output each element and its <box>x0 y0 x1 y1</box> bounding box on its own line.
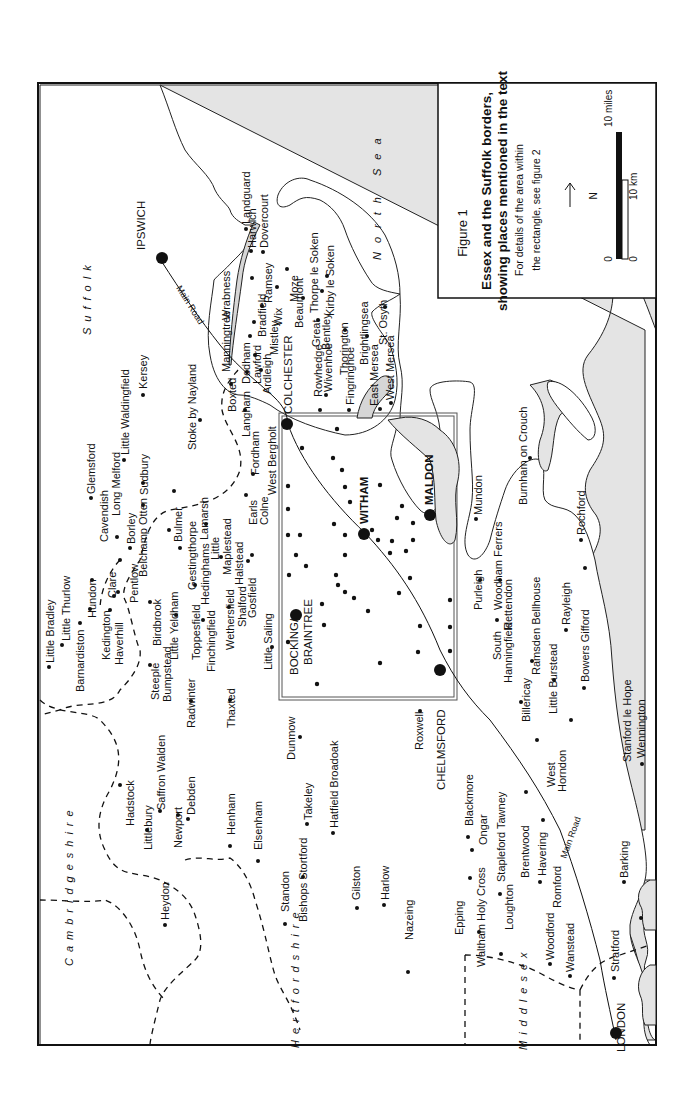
place-long-melford: Long Melford <box>110 452 122 516</box>
place-glemsford: Glemsford <box>85 443 97 494</box>
place-nazeing: Nazeing <box>403 900 415 940</box>
place-dunmow: Dunmow <box>285 717 297 760</box>
place-little-saling: Little Saling <box>262 613 274 670</box>
north-label: N <box>588 192 599 199</box>
figure-title-line1: Essex and the Suffolk borders, <box>479 92 494 290</box>
place-rochford: Rochford <box>575 490 587 535</box>
place-maplestead: Maplestead <box>221 518 233 575</box>
place-bowers-gifford: Bowers Gifford <box>579 609 591 682</box>
place-standon: Standon <box>279 871 291 912</box>
place-hatfield-broadoak: Hatfield Broadoak <box>328 740 340 828</box>
place-epping: Epping <box>453 901 465 935</box>
place-bradfield: Bradfield <box>256 294 268 337</box>
place-bumpstead: Bumpstead <box>161 646 173 702</box>
place-waltham-holy-cross: Waltham Holy Cross <box>475 867 487 967</box>
place-loughton: Loughton <box>503 884 515 930</box>
scale-miles-label: 10 miles <box>603 90 614 127</box>
place-romford: Romford <box>551 866 563 908</box>
place-rayleigh: Rayleigh <box>560 582 572 625</box>
place-manningtree: Manningtree <box>220 311 232 372</box>
place-hanningfield: Hanningfield <box>502 622 514 683</box>
place-pentlow: Pentlow <box>128 564 140 603</box>
place-langham: Langham <box>240 391 252 437</box>
region-middlesex: Middlesex <box>517 946 529 1050</box>
place-little-burstead: Little Burstead <box>547 644 559 714</box>
town-colchester: COLCHESTER <box>282 335 294 414</box>
place-brentwood: Brentwood <box>519 825 531 878</box>
place-gilston: Gilston <box>350 866 362 900</box>
place-thaxted: Thaxted <box>225 688 237 728</box>
place-barking: Barking <box>618 841 630 878</box>
place-birdbrook: Birdbrook <box>151 598 163 646</box>
place-boxted: Boxted <box>226 378 238 412</box>
place-saffron-walden: Saffron Walden <box>155 735 167 810</box>
place-little-thurlow: Little Thurlow <box>60 576 72 641</box>
place-mistley: Mistley <box>268 320 280 355</box>
town-bocking-2: BRAINTREE <box>302 599 314 665</box>
place-dovercourt: Dovercourt <box>258 194 270 248</box>
place-harwich: Harwich <box>246 208 258 248</box>
town-bocking-1: BOCKING/ <box>288 618 300 675</box>
place-kersey: Kersey <box>137 354 149 389</box>
place-newport: Newport <box>172 807 184 848</box>
place-wennington: Wennington <box>635 699 647 758</box>
scale-km-label: 10 km <box>628 173 639 200</box>
place-barnardiston: Barnardiston <box>74 630 86 692</box>
place-ongar: Ongar <box>477 814 489 845</box>
town-witham: WITHAM <box>358 477 370 524</box>
scale-bar-miles <box>616 132 622 259</box>
place-elsenham: Elsenham <box>252 801 264 850</box>
place-radwinter: Radwinter <box>185 678 197 728</box>
place-stanford-le-hope: Stanford le Hope <box>621 679 633 762</box>
town-ipswich: IPSWICH <box>135 201 147 250</box>
place-burnham-on-crouch: Burnham on Crouch <box>517 407 529 505</box>
figure-note-line1: For details of the area within <box>513 144 525 276</box>
place-hadstock: Hadstock <box>124 780 136 826</box>
place-gestingthorpe: Gestingthorpe <box>186 521 198 590</box>
place-takeley: Takeley <box>302 782 314 820</box>
place-mundon: Mundon <box>472 475 484 515</box>
place-west-mersea: West Mersea <box>384 335 396 400</box>
place-toppesfield: Toppesfield <box>190 604 202 660</box>
place-haverhill: Haverhill <box>113 622 125 665</box>
figure-title-line2: showing places mentioned in the text <box>495 70 510 311</box>
place-heydon: Heydon <box>159 882 171 920</box>
place-debden: Debden <box>185 776 197 815</box>
figure-number: Figure 1 <box>455 209 470 257</box>
place-stapleford-tawney: Stapleford Tawney <box>495 791 507 882</box>
scale-miles-zero: 0 <box>603 256 614 262</box>
place-stoke-by-nayland: Stoke by Nayland <box>186 364 198 450</box>
place-bulmer: Bulmer <box>172 507 184 542</box>
place-ardleigh: Ardleigh <box>261 354 273 394</box>
place-little-waldingfield: Little Waldingfield <box>119 369 131 455</box>
town-maldon: MALDON <box>423 455 435 505</box>
place-woodham-ferrers: Woodham Ferrers <box>492 521 504 610</box>
place-colne: Colne <box>258 496 270 525</box>
place-finchingfield: Finchingfield <box>205 610 217 672</box>
scale-km-zero: 0 <box>628 256 639 262</box>
place-wivenhoe: Wivenhoe <box>322 343 334 392</box>
place-littlebury: Littlebury <box>142 805 154 850</box>
town-chelmsford: CHELMSFORD <box>435 709 447 790</box>
place-beaumont: Beaumont <box>293 278 305 328</box>
place-lamarsh: Lamarsh <box>198 497 210 540</box>
place-blackmore: Blackmore <box>463 774 475 826</box>
place-harlow: Harlow <box>379 866 391 900</box>
place-billericay: Billericay <box>520 677 532 722</box>
place-woodford: Woodford <box>544 913 556 961</box>
place-east-mersea: East Mersea <box>368 343 380 406</box>
place-henham: Henham <box>225 793 237 835</box>
region-cambridgeshire: Cambridgeshire <box>63 804 75 966</box>
town-london: LONDON <box>615 1003 627 1052</box>
place-steeple: Steeple <box>149 663 161 700</box>
place-bishops-stortford: Bishops Stortford <box>297 838 309 922</box>
place-little-bradley: Little Bradley <box>44 599 56 663</box>
place-hundon: Hundon <box>86 579 98 618</box>
place-wethersfield: Wethersfield <box>224 589 236 650</box>
place-kirby-le-soken: Kirby le Soken <box>324 245 336 316</box>
region-suffolk: Suffolk <box>81 259 93 335</box>
place-clare: Clare <box>106 572 118 598</box>
place-fingringhoe: Fingringhoe <box>344 347 356 405</box>
essex-suffolk-map: Figure 1 Essex and the Suffolk borders, … <box>0 0 694 1120</box>
place-roxwell: Roxwell <box>413 711 425 750</box>
